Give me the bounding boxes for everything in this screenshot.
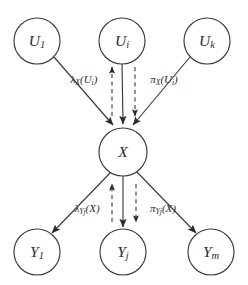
message-label-lambda-yj-x: λYj(X) [73,202,100,216]
diagram-canvas: U1 Ui Uk X Y1 [0,0,248,285]
edge-x-to-y1 [52,171,112,233]
node-yj: Yj [100,229,146,275]
node-uk: Uk [184,18,230,64]
node-ui: Ui [99,18,145,64]
edge-ui-to-x [122,64,123,124]
message-text-lambda-x-ui: λX(Ui) [70,73,98,87]
node-label-x: X [117,143,128,160]
message-label-lambda-x-ui: λX(Ui) [70,73,98,87]
node-ym: Ym [188,229,234,275]
message-label-pi-yj-x: πYj(X) [150,202,176,216]
edge-uk-to-x [133,57,190,125]
node-x: X [99,128,147,176]
message-text-pi-x-ui: πX(Ui) [150,73,178,87]
message-text-lambda-yj-x: λYj(X) [73,202,100,216]
node-y1: Y1 [14,229,60,275]
edge-group-parents-to-x [54,57,190,125]
message-text-pi-yj-x: πYj(X) [150,202,176,216]
bayesian-network-diagram: U1 Ui Uk X Y1 [0,0,248,285]
node-u1: U1 [14,18,60,64]
message-label-pi-x-ui: πX(Ui) [150,73,178,87]
edge-u1-to-x [54,57,113,125]
